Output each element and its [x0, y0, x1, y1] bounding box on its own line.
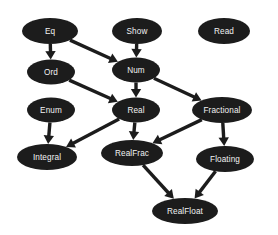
node-label-enum: Enum: [40, 106, 62, 115]
edge-ord-to-real: [69, 80, 111, 99]
node-show[interactable]: Show: [112, 18, 162, 44]
node-num[interactable]: Num: [112, 58, 160, 83]
node-label-eq: Eq: [45, 27, 56, 36]
graph-canvas: EqShowReadOrdNumEnumRealFractionalIntegr…: [0, 0, 278, 235]
arrowhead-show-to-num: [131, 49, 141, 58]
node-integral[interactable]: Integral: [17, 144, 77, 170]
node-label-read: Read: [214, 27, 234, 36]
node-label-show: Show: [127, 27, 148, 36]
node-eq[interactable]: Eq: [22, 18, 78, 44]
edge-real-to-integral: [73, 119, 119, 144]
edge-floating-to-realfloat: [199, 171, 215, 192]
node-ord[interactable]: Ord: [27, 60, 75, 85]
node-realfloat[interactable]: RealFloat: [152, 198, 218, 224]
node-fractional[interactable]: Fractional: [192, 97, 252, 123]
arrowhead-real-to-realfrac: [129, 131, 139, 140]
edge-enum-to-integral: [49, 122, 50, 136]
node-label-realfloat: RealFloat: [167, 207, 204, 216]
edge-num-to-fractional: [154, 78, 195, 97]
arrowhead-num-to-real: [131, 89, 141, 98]
edge-real-to-realfrac: [134, 122, 135, 132]
node-real[interactable]: Real: [112, 98, 160, 123]
type-class-hierarchy-diagram: EqShowReadOrdNumEnumRealFractionalIntegr…: [0, 0, 278, 235]
node-floating[interactable]: Floating: [196, 146, 254, 172]
node-label-floating: Floating: [210, 155, 240, 164]
node-label-realfrac: RealFrac: [115, 149, 149, 158]
edge-fractional-to-floating: [223, 123, 224, 139]
node-label-real: Real: [127, 106, 144, 115]
node-label-integral: Integral: [33, 153, 61, 162]
node-enum[interactable]: Enum: [27, 98, 75, 123]
arrowhead-eq-to-ord: [45, 51, 55, 60]
node-label-fractional: Fractional: [204, 106, 241, 115]
node-read[interactable]: Read: [198, 18, 250, 44]
arrowhead-enum-to-integral: [44, 135, 54, 144]
edge-realfrac-to-realfloat: [143, 165, 169, 193]
edge-fractional-to-realfrac: [159, 120, 202, 140]
node-label-ord: Ord: [44, 68, 58, 77]
node-realfrac[interactable]: RealFrac: [101, 140, 163, 166]
arrowhead-fractional-to-floating: [218, 137, 228, 146]
edge-eq-to-num: [70, 40, 111, 59]
node-label-num: Num: [127, 66, 145, 75]
